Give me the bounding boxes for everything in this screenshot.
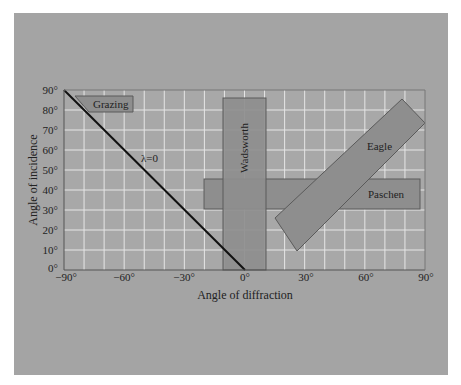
x-tick-neg60: −60° — [113, 271, 135, 283]
spectrograph-mount-diagram: Grazing λ=0 Wadsworth Paschen Eagle 90° … — [0, 0, 461, 385]
y-tick-90: 90° — [43, 84, 58, 96]
eagle-label: Eagle — [367, 140, 392, 152]
x-tick-0: 0° — [240, 271, 250, 283]
paschen-label: Paschen — [368, 188, 405, 200]
x-tick-neg90: −90° — [55, 271, 77, 283]
y-tick-20: 20° — [43, 224, 58, 236]
y-tick-70: 70° — [43, 124, 58, 136]
y-tick-50: 50° — [43, 164, 58, 176]
grazing-label: Grazing — [93, 98, 129, 110]
x-tick-neg30: −30° — [173, 271, 195, 283]
y-tick-30: 30° — [43, 204, 58, 216]
wadsworth-label: Wadsworth — [238, 123, 250, 173]
y-axis-title: Angle of incidence — [26, 134, 40, 225]
lambda-label: λ=0 — [141, 152, 159, 164]
y-tick-10: 10° — [43, 244, 58, 256]
x-tick-30: 30° — [298, 271, 313, 283]
x-axis-title: Angle of diffraction — [197, 288, 293, 302]
y-tick-80: 80° — [43, 104, 58, 116]
y-tick-60: 60° — [43, 144, 58, 156]
x-tick-90: 90° — [418, 271, 433, 283]
x-tick-60: 60° — [358, 271, 373, 283]
y-tick-40: 40° — [43, 184, 58, 196]
